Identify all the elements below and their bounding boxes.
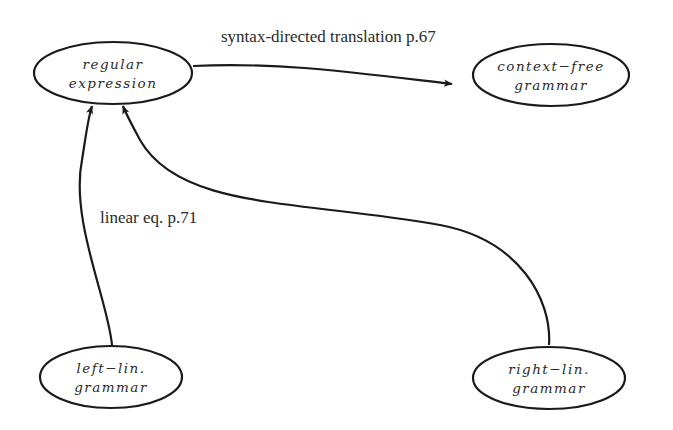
- node-regular-expression[interactable]: regular expression: [34, 42, 192, 104]
- node-right-linear-grammar[interactable]: right−lin. grammar: [473, 347, 625, 409]
- node-label-line2: grammar: [514, 77, 588, 93]
- node-label-line1: regular: [82, 56, 143, 72]
- diagram-canvas: syntax-directed translation p.67 linear …: [0, 0, 673, 430]
- node-left-linear-grammar[interactable]: left−lin. grammar: [40, 346, 182, 408]
- node-label-line1: right−lin.: [508, 361, 589, 377]
- node-label-line1: context−free: [497, 58, 605, 74]
- node-ellipse: [473, 44, 629, 106]
- node-ellipse: [34, 42, 192, 104]
- node-label-line2: grammar: [74, 379, 148, 395]
- edge-label-syntax-directed-translation: syntax-directed translation p.67: [221, 27, 436, 46]
- edge-label-linear-eq: linear eq. p.71: [100, 208, 197, 227]
- node-label-line2: expression: [69, 75, 158, 91]
- node-label-line1: left−lin.: [76, 360, 145, 376]
- edge-regex-to-cfg: [193, 65, 452, 84]
- node-ellipse: [40, 346, 182, 408]
- node-ellipse: [473, 347, 625, 409]
- node-label-line2: grammar: [512, 380, 586, 396]
- node-context-free-grammar[interactable]: context−free grammar: [473, 44, 629, 106]
